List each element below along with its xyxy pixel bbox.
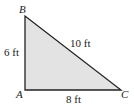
side-label-ab: 6 ft: [4, 46, 19, 58]
triangle-diagram: B A C 6 ft 10 ft 8 ft: [0, 0, 134, 107]
side-label-bc: 10 ft: [70, 37, 90, 49]
vertex-label-a: A: [15, 88, 23, 100]
side-label-ac: 8 ft: [66, 93, 81, 105]
triangle-abc: [25, 16, 121, 90]
vertex-label-b: B: [19, 3, 26, 15]
vertex-label-c: C: [121, 88, 129, 100]
